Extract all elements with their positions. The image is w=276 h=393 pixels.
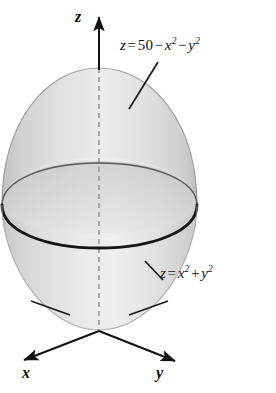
upper-eq-minus-1: −: [153, 37, 165, 53]
x-axis-label: x: [22, 364, 30, 382]
z-axis-label: z: [75, 8, 81, 26]
solid-of-revolution-diagram: [0, 0, 276, 393]
upper-eq-term1-base: x: [165, 37, 172, 53]
upper-eq-minus-2: −: [177, 37, 189, 53]
lower-eq-term1-exponent: 2: [185, 264, 190, 274]
x-axis: [24, 331, 99, 360]
lower-eq-plus: +: [190, 265, 202, 281]
lower-eq-term1-base: x: [178, 265, 185, 281]
upper-eq-term2-exponent: 2: [195, 36, 200, 46]
lower-eq-equals: =: [166, 265, 178, 281]
lower-eq-term2-exponent: 2: [208, 264, 213, 274]
upper-eq-term1-exponent: 2: [172, 36, 177, 46]
upper-surface-equation-label: z=50−x2−y2: [120, 36, 200, 54]
y-axis-label: y: [156, 364, 163, 382]
upper-eq-equals: =: [126, 37, 138, 53]
lower-surface-equation-label: z=x2+y2: [160, 264, 213, 282]
y-axis: [99, 331, 175, 361]
upper-eq-constant: 50: [138, 37, 153, 53]
